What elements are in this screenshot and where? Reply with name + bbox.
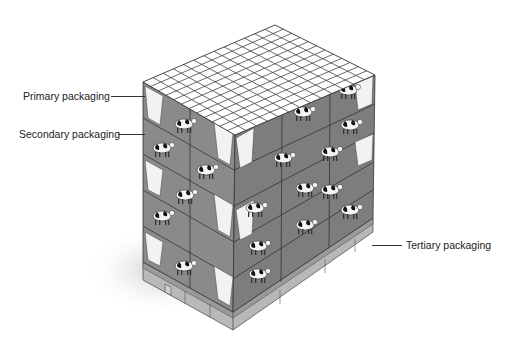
pallet-illustration	[0, 0, 508, 349]
tertiary-packaging-label: Tertiary packaging	[406, 239, 491, 251]
secondary-packaging-label: Secondary packaging	[19, 128, 120, 140]
primary-packaging-label: Primary packaging	[23, 90, 110, 102]
tertiary-leader-line	[372, 245, 402, 246]
secondary-leader-line	[118, 134, 145, 135]
primary-leader-line	[111, 96, 145, 97]
